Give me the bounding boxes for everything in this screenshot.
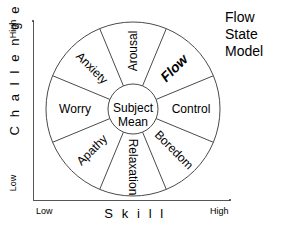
center-subject-mean: Subject Mean bbox=[98, 101, 168, 129]
center-line-2: Mean bbox=[98, 115, 168, 129]
flow-state-model-figure: Flow State Model C h a l l e n g e S k i… bbox=[0, 0, 281, 232]
wheel-segment-arousal: Arousal bbox=[125, 3, 141, 99]
center-line-1: Subject bbox=[98, 101, 168, 115]
wheel-segment-relaxation: Relaxation bbox=[125, 119, 141, 215]
